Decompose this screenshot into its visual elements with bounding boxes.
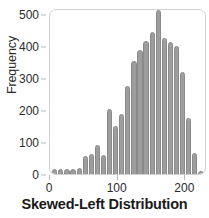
x-tick-mark — [184, 175, 185, 180]
histogram-bar — [89, 154, 94, 175]
y-axis-tick-layer: 0100200300400500 — [0, 0, 49, 218]
histogram-bar — [162, 38, 167, 175]
y-tick-mark — [41, 143, 46, 144]
x-tick-mark — [49, 175, 50, 180]
y-tick-label: 0 — [32, 168, 39, 182]
histogram-bar — [83, 156, 88, 175]
histogram-bar — [107, 109, 112, 175]
histogram-bar — [156, 10, 161, 175]
x-tick-label: 100 — [107, 181, 127, 195]
histogram-bar — [186, 118, 191, 175]
y-tick-mark — [41, 111, 46, 112]
x-tick-label: 200 — [174, 181, 194, 195]
histogram-bar — [168, 42, 173, 175]
y-tick-label: 100 — [19, 136, 39, 150]
y-tick-mark — [41, 79, 46, 80]
y-tick-label: 300 — [19, 72, 39, 86]
chart-title: Skewed-Left Distribution — [0, 196, 209, 212]
histogram-bar — [143, 41, 148, 175]
histogram-bar — [131, 61, 136, 175]
x-tick-label: 0 — [46, 181, 53, 195]
histogram-bar — [180, 72, 185, 175]
bars-layer — [50, 10, 205, 174]
histogram-bar — [113, 126, 118, 175]
y-tick-mark — [41, 15, 46, 16]
histogram-bar — [174, 46, 179, 175]
y-tick-label: 500 — [19, 8, 39, 22]
histogram-bar — [101, 155, 106, 175]
histogram-bar — [192, 153, 197, 175]
histogram-bar — [95, 145, 100, 175]
y-tick-label: 400 — [19, 40, 39, 54]
histogram-bar — [119, 114, 124, 175]
y-tick-mark — [41, 175, 46, 176]
y-tick-mark — [41, 47, 46, 48]
histogram-bar — [150, 32, 155, 176]
histogram-bar — [137, 50, 142, 175]
y-tick-label: 200 — [19, 104, 39, 118]
plot-area — [49, 9, 206, 175]
x-tick-mark — [117, 175, 118, 180]
histogram-bar — [125, 86, 130, 175]
histogram-figure: Frequency 0100200300400500 0100200 Skewe… — [0, 0, 209, 218]
